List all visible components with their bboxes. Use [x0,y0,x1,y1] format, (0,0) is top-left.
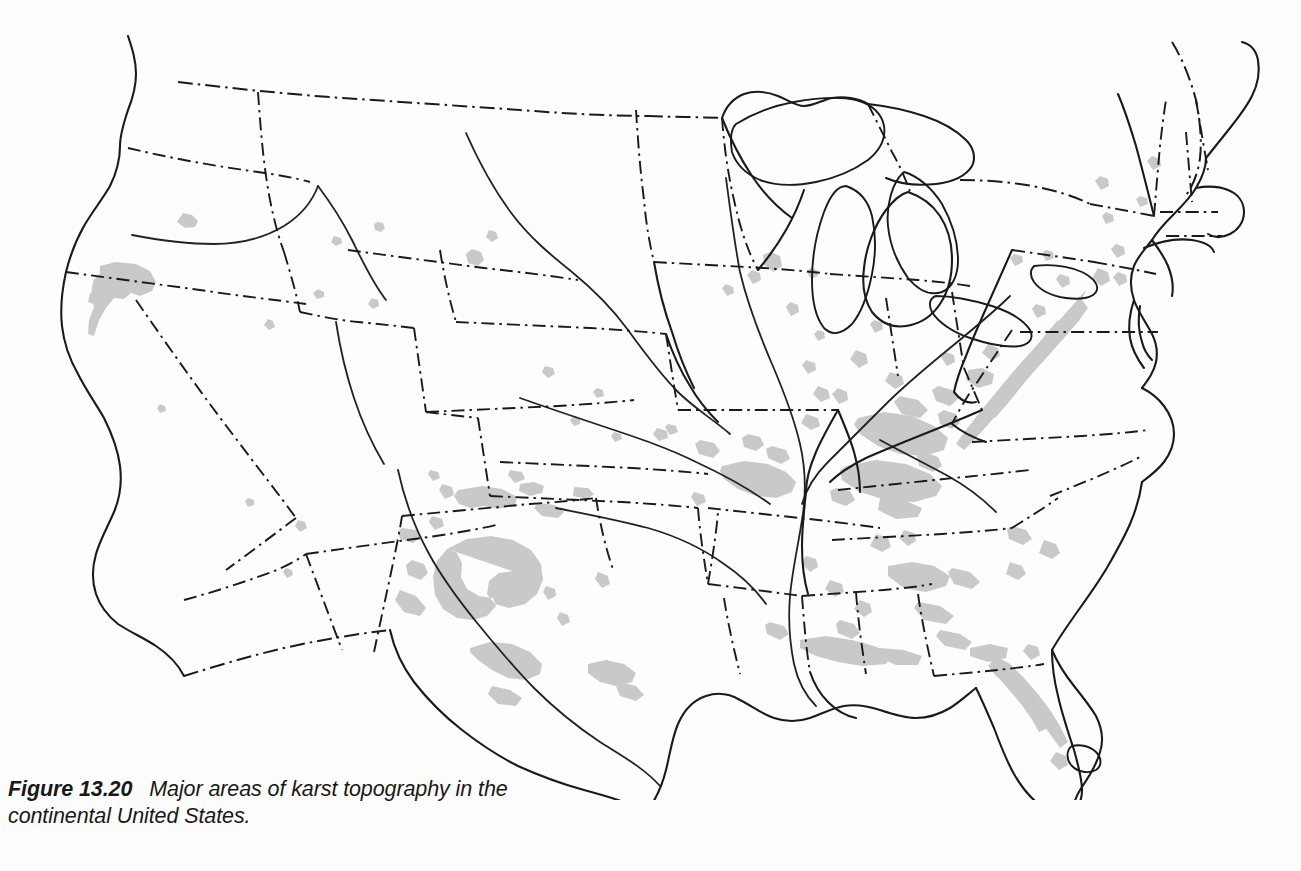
state-boundaries-group [66,92,1222,676]
karst-area [245,498,254,507]
atlantic-coastline-southeast [1052,482,1142,650]
maine-coast [1206,42,1259,158]
karst-area [295,520,307,532]
karst-area [813,386,830,402]
new-york-hudson [1118,94,1154,216]
figure-number-label: Figure 13.20 [8,777,132,801]
karst-area [1092,268,1110,286]
nebraska-missouri-river [666,334,718,422]
karst-area [466,249,484,266]
atlantic-coastline-northeast [1152,158,1206,240]
karst-area [800,636,892,666]
karst-area [508,470,525,483]
karst-area [801,414,820,430]
delaware-bay [1152,240,1173,296]
karst-area [747,270,761,284]
mexico-border-west [184,630,390,676]
karst-area [988,320,1065,418]
karst-area [1023,644,1040,660]
karst-area [313,289,324,299]
state-line-nd-sd [440,250,456,322]
karst-area [470,642,542,680]
state-line-az-nm [306,554,342,650]
karst-area [368,298,379,309]
karst-area [814,330,825,341]
michigan-lower-peninsula [863,192,952,326]
atlantic-coastline-mid [1131,240,1157,388]
national-boundaries-group [61,36,1259,800]
state-line-mo-ar [708,508,880,528]
karst-area [486,230,498,242]
lake-superior [731,98,885,185]
karst-area [374,222,385,232]
snake-river [318,186,386,300]
karst-area [766,446,790,464]
state-line-ks-ok [490,496,698,508]
karst-area [283,568,293,578]
state-line-co-ks [478,418,490,496]
karst-area [542,366,555,378]
lake-okeechobee [1068,745,1101,772]
state-line-pa-ny [1090,204,1154,216]
karst-area [264,319,275,330]
state-line-nh-me [1196,100,1208,170]
pacific-coastline [61,36,184,676]
state-line-tn-al-ga [832,528,1012,540]
florida-atlantic-coast [1052,650,1102,800]
state-line-nd-mn-vertical [636,110,654,262]
state-line-ut-co [426,412,478,418]
florida-gulf-coast [976,650,1082,800]
iowa-missouri-river-edge [654,262,694,388]
canada-border-maine [1172,42,1201,198]
karst-area [395,590,426,616]
karst-area [695,440,720,458]
state-line-id-mt-wy [300,312,414,328]
karst-area [534,503,564,518]
karst-area [885,372,904,389]
state-line-ia-mn [654,262,830,274]
chesapeake-bay [1129,300,1152,368]
michigan-upper-peninsula [868,104,974,185]
state-line-sc-ga [1012,498,1058,528]
karst-area [573,487,594,499]
karst-area [1006,562,1026,580]
karst-area [1010,254,1023,266]
state-line-ms-tn-ar [708,512,718,584]
karst-area [832,388,848,404]
cape-cod [1196,187,1244,237]
karst-area [429,516,444,530]
state-line-tx-la [724,598,740,674]
arkansas-river [520,398,770,504]
state-line-nc-sc [1050,456,1142,496]
karst-area [948,568,980,589]
red-river [556,508,766,604]
karst-area [1113,272,1127,286]
karst-area [1032,304,1046,318]
karst-area [899,530,916,546]
state-line-wy-ut-co [414,328,426,412]
karst-area [936,630,972,650]
state-line-ok-tx [596,498,614,572]
long-island [1144,239,1214,252]
karst-area [588,660,636,686]
karst-area [616,682,644,701]
karst-area [691,492,706,506]
karst-area [830,488,855,506]
karst-area [870,320,883,333]
columbia-river [132,186,318,244]
karst-area [854,412,948,456]
karst-area [177,213,198,228]
state-line-nv-az [226,518,296,570]
canada-border-49th [178,82,648,116]
karst-area [1102,212,1114,224]
state-line-or-wa [128,148,310,182]
karst-area [543,586,556,600]
karst-area [406,560,428,580]
karst-area [970,644,1008,662]
karst-area [1136,196,1148,207]
karst-area [428,470,440,481]
karst-area [786,302,799,316]
state-line-la-ms [802,596,810,672]
gulf-coastline [646,688,976,800]
karst-area [653,428,668,441]
